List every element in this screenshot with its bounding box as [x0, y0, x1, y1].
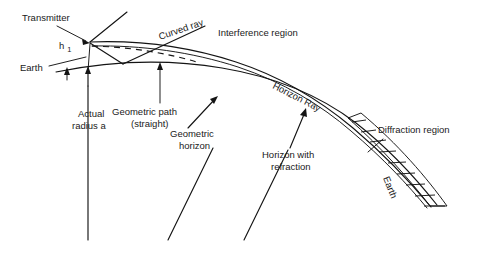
earth-left-label: Earth: [20, 62, 43, 73]
transmitter-arrowhead: [82, 39, 90, 45]
transmitter-label: Transmitter: [22, 12, 70, 23]
horizon-refraction-label-line1: Horizon with: [262, 149, 314, 160]
diagram-canvas: Transmitter h1 Earth Curved ray Interfer…: [0, 0, 481, 262]
transmitter-upper-ray: [90, 12, 127, 42]
earth-band-label: Earth: [381, 175, 400, 200]
geometric-path-arrowhead: [157, 62, 163, 70]
geometric-horizon-radius-line: [168, 148, 213, 240]
earth-surface-pointer-arrowhead: [64, 67, 70, 75]
actual-radius-label-line2: radius a: [72, 120, 107, 131]
curved-ray-label: Curved ray: [157, 16, 205, 42]
transmitter-leader: [57, 26, 86, 41]
horizon-ray-label: Horizon Ray: [271, 80, 323, 114]
propagation-diagram: Transmitter h1 Earth Curved ray Interfer…: [0, 0, 481, 262]
interference-region-label: Interference region: [218, 27, 298, 38]
horizon-refraction-label-line2: refraction: [271, 161, 311, 172]
actual-radius-label-line1: Actual: [78, 108, 104, 119]
horizon-refraction-arrowhead: [300, 108, 307, 117]
horizon-refraction-leader: [290, 112, 305, 148]
diffraction-region-label: Diffraction region: [378, 124, 450, 135]
transmitter-height-label: h1: [59, 40, 71, 54]
geometric-horizon-label-line2: horizon: [179, 140, 210, 151]
geometric-path-label-line1: Geometric path: [112, 106, 177, 117]
geometric-horizon-label-line1: Geometric: [170, 128, 214, 139]
geometric-horizon-leader: [188, 99, 215, 128]
geometric-path-label-line2: (straight): [131, 118, 168, 129]
earth-label-leader: [49, 57, 86, 66]
